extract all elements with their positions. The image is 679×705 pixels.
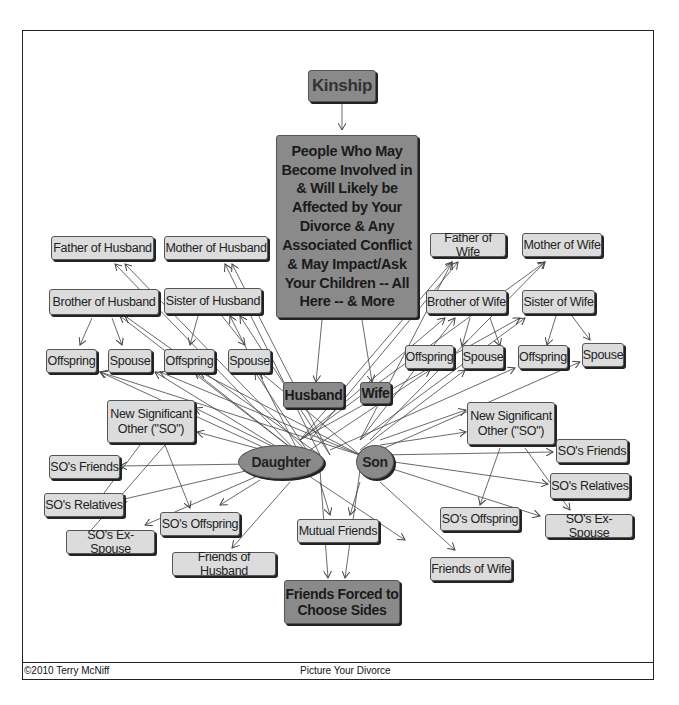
sister-of-wife-box: Sister of Wife bbox=[522, 290, 595, 314]
wife-box: Wife bbox=[360, 382, 391, 404]
so-friends-left-box: SO's Friends bbox=[49, 455, 120, 479]
friends-of-husband-box: Friends of Husband bbox=[172, 552, 276, 576]
so-exspouse-left-box: SO's Ex-Spouse bbox=[66, 530, 155, 554]
father-of-wife-box: Father of Wife bbox=[430, 233, 506, 257]
brother-of-husband-box: Brother of Husband bbox=[49, 289, 159, 315]
offspring-box: Offspring bbox=[518, 345, 568, 369]
brother-of-wife-box: Brother of Wife bbox=[426, 290, 507, 314]
offspring-box: Offspring bbox=[46, 349, 97, 373]
footer-copyright: ©2010 Terry McNiff bbox=[24, 665, 109, 676]
main-description-box: People Who May Become Involved in & Will… bbox=[276, 135, 418, 318]
spouse-box: Spouse bbox=[228, 349, 271, 373]
friends-forced-to-choose-sides-box: Friends Forced to Choose Sides bbox=[284, 580, 400, 624]
spouse-box: Spouse bbox=[582, 343, 624, 367]
mother-of-husband-box: Mother of Husband bbox=[164, 236, 268, 260]
offspring-box: Offspring bbox=[164, 349, 215, 373]
spouse-box: Spouse bbox=[108, 349, 152, 373]
sister-of-husband-box: Sister of Husband bbox=[164, 288, 262, 314]
kinship-title-box: Kinship bbox=[308, 70, 376, 102]
son-ellipse: Son bbox=[356, 445, 394, 479]
father-of-husband-box: Father of Husband bbox=[51, 236, 154, 260]
new-significant-other-right-box: New Significant Other ("SO") bbox=[467, 402, 555, 445]
friends-of-wife-box: Friends of Wife bbox=[430, 557, 512, 581]
daughter-ellipse: Daughter bbox=[238, 445, 324, 479]
so-exspouse-right-box: SO's Ex-Spouse bbox=[545, 514, 633, 538]
footer-title: Picture Your Divorce bbox=[300, 665, 391, 676]
husband-box: Husband bbox=[283, 382, 344, 408]
spouse-box: Spouse bbox=[462, 345, 504, 369]
new-significant-other-left-box: New Significant Other ("SO") bbox=[107, 400, 195, 443]
so-friends-right-box: SO's Friends bbox=[556, 439, 628, 463]
so-offspring-right-box: SO's Offspring bbox=[440, 507, 520, 531]
so-offspring-left-box: SO's Offspring bbox=[160, 512, 240, 536]
mother-of-wife-box: Mother of Wife bbox=[522, 233, 602, 257]
footer-divider bbox=[22, 662, 654, 663]
so-relatives-right-box: SO's Relatives bbox=[550, 473, 630, 499]
mutual-friends-box: Mutual Friends bbox=[297, 519, 379, 543]
so-relatives-left-box: SO's Relatives bbox=[44, 493, 124, 517]
offspring-box: Offspring bbox=[405, 345, 454, 369]
